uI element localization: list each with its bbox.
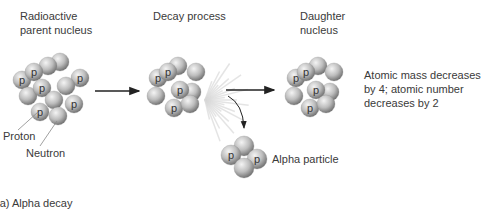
- proton-symbol: p: [307, 102, 313, 114]
- proton-symbol: p: [254, 153, 260, 165]
- proton-symbol: p: [39, 82, 45, 94]
- neutron-sphere: [45, 91, 63, 109]
- neutron-sphere: [325, 63, 343, 81]
- neutron-leader-line: [40, 121, 57, 146]
- daughter-nucleus: pppp: [285, 57, 343, 117]
- alpha-particle: pp: [221, 136, 267, 178]
- proton-symbol: p: [71, 98, 77, 110]
- proton-leader-line: [18, 112, 38, 130]
- proton-symbol: p: [165, 66, 171, 78]
- proton-symbol: p: [31, 66, 37, 78]
- decay-burst: [205, 64, 249, 142]
- neutron-sphere: [57, 77, 75, 95]
- proton-symbol: p: [77, 72, 83, 84]
- neutron-sphere: [147, 87, 165, 105]
- parent-nucleus: pppppp: [13, 53, 89, 125]
- proton-symbol: p: [303, 66, 309, 78]
- proton-symbol: p: [177, 84, 183, 96]
- decaying-nucleus: pppp: [147, 57, 205, 117]
- neutron-sphere: [234, 158, 254, 178]
- neutron-sphere: [181, 95, 199, 113]
- proton-symbol: p: [313, 84, 319, 96]
- neutron-sphere: [49, 107, 67, 125]
- neutron-sphere: [285, 87, 303, 105]
- neutron-sphere: [317, 95, 335, 113]
- proton-symbol: p: [228, 149, 234, 161]
- arrow-to-alpha: [228, 96, 244, 128]
- neutron-sphere: [187, 63, 205, 81]
- proton-symbol: p: [171, 102, 177, 114]
- proton-symbol: p: [19, 74, 25, 86]
